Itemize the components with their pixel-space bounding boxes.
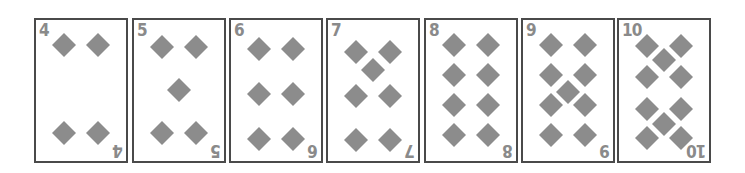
diamond-icon bbox=[86, 33, 110, 57]
diamond-icon bbox=[635, 65, 659, 89]
diamond-icon bbox=[281, 127, 305, 151]
diamond-icon bbox=[573, 33, 597, 57]
diamond-icon bbox=[378, 128, 402, 152]
diamond-icon bbox=[52, 121, 76, 145]
rank-label-top: 4 bbox=[39, 22, 49, 39]
diamond-icon bbox=[52, 33, 76, 57]
rank-label-top: 9 bbox=[526, 22, 536, 39]
diamond-icon bbox=[378, 40, 402, 64]
rank-label-bottom: 10 bbox=[687, 142, 706, 159]
rank-label-top: 8 bbox=[429, 22, 439, 39]
diamond-icon bbox=[539, 33, 563, 57]
rank-label-bottom: 8 bbox=[503, 142, 513, 159]
diamond-icon bbox=[150, 121, 174, 145]
diamond-icon bbox=[247, 82, 271, 106]
diamond-icon bbox=[539, 123, 563, 147]
playing-card-6[interactable]: 66 bbox=[229, 18, 323, 163]
diamond-icon bbox=[184, 121, 208, 145]
diamond-icon bbox=[344, 40, 368, 64]
diamond-icon bbox=[184, 35, 208, 59]
diamond-icon bbox=[442, 123, 466, 147]
diamond-icon bbox=[442, 93, 466, 117]
diamond-icon bbox=[476, 63, 500, 87]
diamond-icon bbox=[652, 48, 676, 72]
rank-label-bottom: 9 bbox=[600, 142, 610, 159]
rank-label-top: 5 bbox=[137, 22, 147, 39]
rank-label-top: 10 bbox=[622, 22, 641, 39]
diamond-icon bbox=[86, 121, 110, 145]
diamond-icon bbox=[539, 93, 563, 117]
diamond-icon bbox=[635, 126, 659, 150]
playing-card-10[interactable]: 1010 bbox=[617, 18, 711, 163]
diamond-icon bbox=[150, 35, 174, 59]
diamond-icon bbox=[476, 123, 500, 147]
diamond-icon bbox=[378, 84, 402, 108]
diamond-icon bbox=[573, 93, 597, 117]
playing-card-5[interactable]: 55 bbox=[132, 18, 226, 163]
playing-card-7[interactable]: 77 bbox=[326, 18, 420, 163]
diamond-icon bbox=[247, 127, 271, 151]
playing-card-9[interactable]: 99 bbox=[521, 18, 615, 163]
diamond-icon bbox=[669, 65, 693, 89]
rank-label-bottom: 6 bbox=[308, 142, 318, 159]
diamond-icon bbox=[247, 37, 271, 61]
rank-label-bottom: 5 bbox=[211, 142, 221, 159]
diamond-icon bbox=[442, 33, 466, 57]
diamond-icon bbox=[652, 112, 676, 136]
playing-card-4[interactable]: 44 bbox=[34, 18, 128, 163]
diamond-icon bbox=[573, 63, 597, 87]
diamond-icon bbox=[669, 34, 693, 58]
playing-card-8[interactable]: 88 bbox=[424, 18, 518, 163]
diamond-icon bbox=[442, 63, 466, 87]
diamond-icon bbox=[361, 58, 385, 82]
diamond-icon bbox=[476, 93, 500, 117]
diamond-icon bbox=[281, 82, 305, 106]
diamond-icon bbox=[476, 33, 500, 57]
diamond-icon bbox=[281, 37, 305, 61]
diamond-icon bbox=[344, 128, 368, 152]
diamond-icon bbox=[539, 63, 563, 87]
diamond-icon bbox=[669, 97, 693, 121]
rank-label-top: 7 bbox=[331, 22, 341, 39]
diamond-icon bbox=[635, 97, 659, 121]
diamond-icon bbox=[573, 123, 597, 147]
diamond-icon bbox=[344, 84, 368, 108]
rank-label-top: 6 bbox=[234, 22, 244, 39]
diamond-icon bbox=[167, 78, 191, 102]
rank-label-bottom: 4 bbox=[113, 142, 123, 159]
rank-label-bottom: 7 bbox=[405, 142, 415, 159]
